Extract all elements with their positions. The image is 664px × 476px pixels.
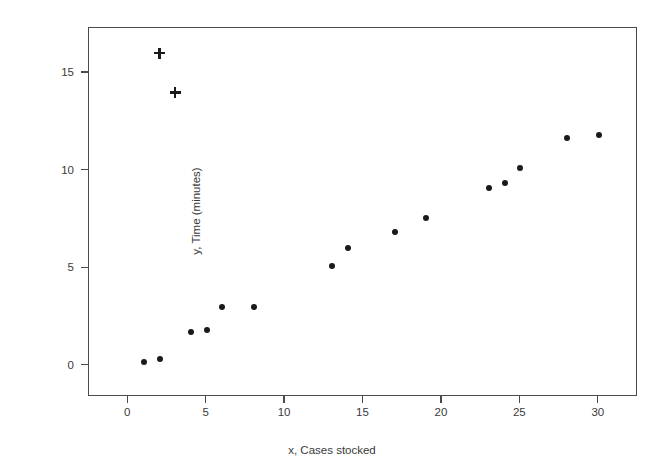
outlier-marker	[170, 87, 181, 98]
data-points-layer	[89, 28, 636, 395]
y-tick-label: 0	[68, 359, 74, 371]
x-tick-label: 30	[591, 406, 604, 418]
data-point-marker	[219, 304, 225, 310]
scatter-chart: 051015202530051015 x, Cases stocked y, T…	[0, 0, 664, 476]
data-point-marker	[517, 165, 523, 171]
y-tick-mark	[81, 71, 88, 72]
y-tick-label: 10	[61, 164, 74, 176]
x-tick-label: 0	[124, 406, 130, 418]
data-point-marker	[251, 304, 257, 310]
x-tick-label: 25	[513, 406, 526, 418]
y-tick-label: 15	[61, 66, 74, 78]
x-tick-mark	[362, 396, 363, 403]
x-axis-title: x, Cases stocked	[0, 444, 664, 456]
y-tick-mark	[81, 364, 88, 365]
x-tick-mark	[283, 396, 284, 403]
x-tick-label: 10	[278, 406, 291, 418]
x-tick-mark	[127, 396, 128, 403]
plot-area-frame	[88, 27, 637, 396]
y-tick-mark	[81, 169, 88, 170]
data-point-marker	[423, 215, 429, 221]
y-axis-title: y, Time (minutes)	[186, 27, 206, 396]
x-tick-label: 5	[202, 406, 208, 418]
x-tick-label: 15	[356, 406, 369, 418]
data-point-marker	[329, 263, 335, 269]
data-point-marker	[486, 185, 492, 191]
x-tick-mark	[519, 396, 520, 403]
data-point-marker	[141, 359, 147, 365]
outlier-marker	[154, 48, 165, 59]
data-point-marker	[596, 132, 602, 138]
data-point-marker	[345, 245, 351, 251]
data-point-marker	[392, 229, 398, 235]
y-tick-mark	[81, 267, 88, 268]
data-point-marker	[564, 135, 570, 141]
x-tick-mark	[440, 396, 441, 403]
data-point-marker	[157, 356, 163, 362]
x-tick-mark	[205, 396, 206, 403]
x-tick-mark	[597, 396, 598, 403]
data-point-marker	[502, 180, 508, 186]
x-tick-label: 20	[435, 406, 448, 418]
y-tick-label: 5	[68, 261, 74, 273]
